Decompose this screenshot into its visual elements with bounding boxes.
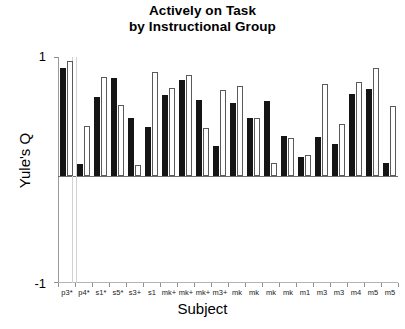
bar-series-2 (67, 61, 73, 176)
bar-series-1 (332, 144, 338, 176)
bar-group (178, 57, 195, 176)
x-tick-mark (211, 283, 212, 287)
chart-title-line-1: Actively on Task (0, 3, 405, 19)
bar-group (195, 57, 212, 176)
x-tick-mark (398, 283, 399, 287)
bar-series-1 (298, 157, 304, 176)
bar-series-1 (77, 164, 83, 176)
bar-group (161, 57, 178, 176)
bar-series-2 (390, 106, 396, 176)
y-tick-label-bottom: -1 (20, 277, 46, 290)
bar-series-container (58, 57, 398, 283)
bar-series-1 (145, 127, 151, 176)
bar-group (229, 57, 246, 176)
x-tick-mark (92, 283, 93, 287)
x-tick-mark (143, 283, 144, 287)
x-tick-mark (160, 283, 161, 287)
bar-group (246, 57, 263, 176)
chart-title: Actively on Task by Instructional Group (0, 3, 405, 35)
bar-series-2 (373, 68, 379, 176)
x-tick-mark (313, 283, 314, 287)
x-tick-mark (330, 283, 331, 287)
chart-title-line-2: by Instructional Group (0, 19, 405, 35)
bar-series-1 (162, 95, 168, 176)
bar-series-1 (264, 101, 270, 176)
bar-group (331, 57, 348, 176)
bar-series-1 (247, 118, 253, 176)
bar-group (93, 57, 110, 176)
x-tick-mark (279, 283, 280, 287)
x-axis-label: Subject (0, 300, 405, 317)
bar-series-2 (356, 82, 362, 176)
bar-series-2 (305, 155, 311, 176)
bar-series-2 (135, 165, 141, 176)
x-tick-mark (177, 283, 178, 287)
bar-series-1 (281, 136, 287, 176)
x-tick-mark (58, 283, 59, 287)
bar-series-1 (60, 68, 66, 176)
bar-group (348, 57, 365, 176)
bar-group (297, 57, 314, 176)
bar-group (280, 57, 297, 176)
bar-series-2 (271, 163, 277, 176)
bar-series-2 (118, 105, 124, 176)
y-axis-label: Yule's Q (16, 86, 33, 236)
bar-group (59, 57, 76, 176)
plot-area: p3*p4*s1*s5*s3+s1mk+mk+mk+m3+mkmkmkmkm1m… (58, 57, 398, 283)
bar-series-2 (84, 126, 90, 176)
x-tick-mark (262, 283, 263, 287)
bar-series-2 (186, 75, 192, 176)
x-tick-mark (245, 283, 246, 287)
bar-series-2 (322, 84, 328, 176)
bar-series-1 (196, 100, 202, 176)
bar-series-2 (203, 128, 209, 176)
bar-group (144, 57, 161, 176)
x-tick-mark (126, 283, 127, 287)
bar-group (127, 57, 144, 176)
bar-series-1 (383, 163, 389, 176)
y-tick-label-top: 1 (20, 50, 46, 63)
bar-group (263, 57, 280, 176)
bar-group (365, 57, 382, 176)
bar-series-2 (237, 86, 243, 176)
x-tick-mark (194, 283, 195, 287)
x-tick-mark (381, 283, 382, 287)
x-tick-mark (109, 283, 110, 287)
bar-series-1 (128, 118, 134, 176)
bar-series-1 (230, 103, 236, 176)
bar-group (110, 57, 127, 176)
bar-series-1 (315, 137, 321, 176)
bar-series-1 (179, 80, 185, 176)
bar-series-1 (349, 94, 355, 176)
bar-series-1 (94, 97, 100, 176)
bar-series-2 (169, 88, 175, 176)
bar-series-2 (152, 72, 158, 176)
x-tick-mark (228, 283, 229, 287)
bar-series-2 (339, 124, 345, 176)
x-tick-label: m5 (377, 288, 403, 297)
bar-series-2 (254, 118, 260, 176)
x-tick-mark (347, 283, 348, 287)
bar-series-1 (111, 78, 117, 176)
bar-group (212, 57, 229, 176)
bar-group (76, 57, 93, 176)
bar-series-1 (213, 146, 219, 176)
bar-group (382, 57, 399, 176)
bar-series-1 (366, 89, 372, 176)
bar-series-2 (220, 90, 226, 176)
x-tick-mark (75, 283, 76, 287)
x-tick-mark (364, 283, 365, 287)
chart-figure: Actively on Task by Instructional Group … (0, 0, 405, 329)
bar-group (314, 57, 331, 176)
x-tick-mark (296, 283, 297, 287)
bar-series-2 (288, 138, 294, 176)
bar-series-2 (101, 77, 107, 176)
